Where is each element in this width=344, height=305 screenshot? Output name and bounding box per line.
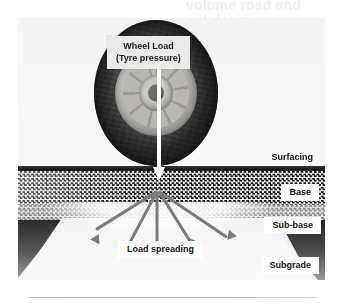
wheel-load-callout: Wheel Load (Tyre pressure) [107,36,190,69]
label-sub-base: Sub-base [264,217,321,234]
spread-arrow-far-right [158,190,228,238]
wheel-load-callout-line-2: (Tyre pressure) [116,52,181,64]
pavement-load-diagram: Wheel Load (Tyre pressure) Surfacing Bas… [18,18,325,280]
spread-arrow-right [158,191,194,247]
label-base: Base [281,184,319,201]
faint-heading-line-1: volume road and [186,0,336,13]
label-subgrade: Subgrade [261,257,319,274]
label-surfacing: Surfacing [263,149,321,166]
spread-arrow-far-left-head [90,234,103,247]
footer-divider [28,297,318,298]
wheel-load-arrow-head [153,167,165,181]
label-load-spreading: Load spreading [118,241,203,258]
spread-arrow-far-right-head [223,230,236,243]
wheel-load-arrow [153,51,165,183]
wheel-load-callout-line-1: Wheel Load [116,40,181,52]
slide-canvas: volume road and ent design [0,0,344,305]
